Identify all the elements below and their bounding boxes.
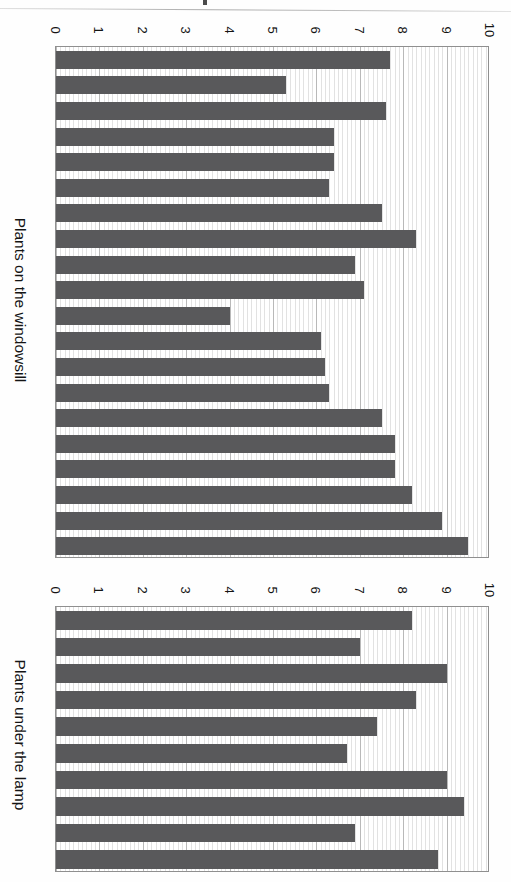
scanned-figure-page: 012345678910Plants on the windowsill 012…: [0, 0, 511, 882]
bar: [56, 384, 329, 402]
bar: [56, 435, 395, 453]
plot-area: [55, 606, 489, 872]
axis-tick-label: 1: [91, 586, 106, 593]
bar: [56, 281, 364, 299]
axis-tick-label: 6: [308, 26, 323, 33]
bar: [56, 332, 321, 350]
bar: [56, 358, 325, 376]
bar: [56, 512, 442, 530]
bar: [56, 664, 447, 683]
scan-page-edge: [0, 8, 511, 12]
axis-tick-label: 2: [134, 26, 149, 33]
bar: [56, 460, 395, 478]
bar: [56, 850, 438, 869]
axis-tick-label: 0: [48, 586, 63, 593]
axis-tick-label: 2: [134, 586, 149, 593]
chart-axis-title: Plants on the windowsill: [11, 218, 29, 383]
bar: [56, 256, 355, 274]
axis-tick-label: 0: [48, 26, 63, 33]
axis-tick-label: 10: [482, 23, 497, 37]
axis-tick-label: 3: [178, 26, 193, 33]
bar: [56, 307, 230, 325]
bar: [56, 51, 390, 69]
axis-tick-label: 5: [265, 26, 280, 33]
axis-tick-label: 9: [438, 586, 453, 593]
bar: [56, 638, 360, 657]
bar: [56, 102, 386, 120]
bar: [56, 537, 468, 555]
axis-tick-label: 9: [438, 26, 453, 33]
axis-tick-label: 1: [91, 26, 106, 33]
axis-tick-label: 7: [351, 26, 366, 33]
bar-series: [56, 47, 488, 557]
scan-artifact-speck: [203, 0, 207, 5]
axis-tick-label: 5: [265, 586, 280, 593]
axis-tick-label: 4: [221, 26, 236, 33]
axis-tick-label: 8: [395, 26, 410, 33]
bar: [56, 128, 334, 146]
bar: [56, 409, 382, 427]
axis-tick-label: 4: [221, 586, 236, 593]
axis-tick-label: 10: [482, 583, 497, 597]
axis-tick-label: 7: [351, 586, 366, 593]
bar: [56, 824, 355, 843]
bar: [56, 486, 412, 504]
bar: [56, 744, 347, 763]
bar: [56, 691, 416, 710]
bar: [56, 797, 464, 816]
bar: [56, 771, 447, 790]
plot-area: [55, 46, 489, 558]
bar: [56, 717, 377, 736]
axis-tick-label: 8: [395, 586, 410, 593]
chart-axis-title: Plants under the lamp: [11, 660, 29, 811]
bar-series: [56, 607, 488, 871]
bar: [56, 153, 334, 171]
bar: [56, 230, 416, 248]
bar: [56, 179, 329, 197]
bar: [56, 76, 286, 94]
axis-tick-label: 3: [178, 586, 193, 593]
axis-tick-label: 6: [308, 586, 323, 593]
bar: [56, 611, 412, 630]
bar: [56, 204, 382, 222]
